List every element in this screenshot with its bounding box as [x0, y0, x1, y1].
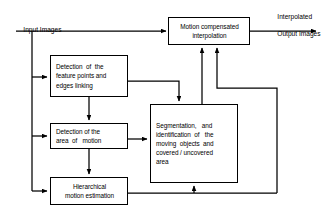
node-area-of-motion-detection[interactable]: Detection of the area of motion — [50, 123, 128, 149]
node-segmentation-line-5: area — [156, 157, 233, 166]
node-motion-comp-line-2: interpolation — [174, 31, 245, 40]
node-area-motion-line-2: area of motion — [56, 136, 123, 145]
node-hierarchical-line-1: Hierarchical — [56, 182, 123, 191]
output-images-label: Interpolated Output Images — [270, 5, 321, 47]
wire-feature-points-to-segmentation — [128, 81, 179, 101]
node-segmentation-line-3: moving objects and — [156, 139, 233, 148]
block-diagram: Input Images Interpolated Output Images … — [0, 0, 324, 222]
output-label-line-1: Interpolated — [277, 13, 312, 20]
node-feature-points-detection[interactable]: Detection of the feature points and edge… — [50, 55, 128, 97]
input-images-label: Input Images — [16, 18, 61, 43]
node-motion-compensated-interpolation[interactable]: Motion compensated interpolation — [168, 17, 250, 45]
node-feature-points-line-2: feature points and — [56, 71, 123, 80]
node-area-motion-line-1: Detection of the — [56, 127, 123, 136]
node-segmentation-identification[interactable]: Segmentation, and identification of the … — [150, 104, 238, 183]
node-segmentation-line-1: Segmentation, and — [156, 121, 233, 130]
node-hierarchical-motion-estimation[interactable]: Hierarchical motion estimation — [50, 177, 128, 205]
node-motion-comp-line-1: Motion compensated — [174, 22, 245, 31]
node-segmentation-line-4: covered / uncovered — [156, 148, 233, 157]
node-feature-points-line-3: edges linking — [56, 81, 123, 90]
output-label-line-2: Output Images — [277, 30, 320, 37]
node-feature-points-line-1: Detection of the — [56, 62, 123, 71]
node-segmentation-line-2: identification of the — [156, 130, 233, 139]
node-hierarchical-line-2: motion estimation — [56, 191, 123, 200]
